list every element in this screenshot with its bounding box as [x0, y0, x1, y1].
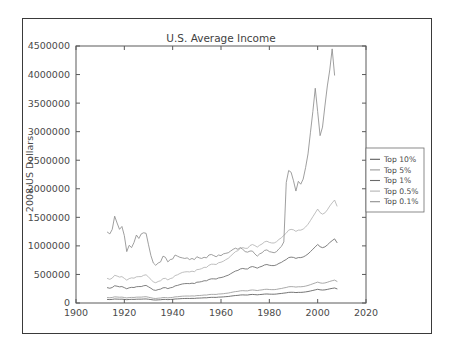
- y-tick-label: 4000000: [28, 69, 70, 80]
- legend-label: Top 10%: [383, 155, 416, 164]
- y-axis-label: 2008 US Dollars: [24, 136, 35, 212]
- chart-canvas: U.S. Average Income 2008 US Dollars 0500…: [0, 0, 454, 354]
- y-tick-label: 2000000: [28, 183, 70, 194]
- legend-label: Top 1%: [383, 176, 411, 185]
- chart-title: U.S. Average Income: [166, 32, 275, 44]
- x-tick-label: 1920: [112, 307, 136, 318]
- plot-area-background: [76, 46, 366, 303]
- y-tick-label: 500000: [34, 269, 70, 280]
- x-tick-label: 1960: [209, 307, 233, 318]
- legend-label: Top 0.1%: [383, 197, 419, 206]
- chart-legend[interactable]: Top 10%Top 5%Top 1%Top 0.5%Top 0.1%: [366, 148, 424, 212]
- y-tick-label: 3500000: [28, 98, 70, 109]
- x-tick-label: 2000: [306, 307, 330, 318]
- x-tick-label: 1900: [64, 307, 88, 318]
- chart-figure: U.S. Average Income 2008 US Dollars 0500…: [0, 0, 454, 354]
- legend-label: Top 5%: [383, 166, 411, 175]
- x-tick-label: 2020: [354, 307, 378, 318]
- y-tick-label: 4500000: [28, 40, 70, 51]
- y-tick-label: 3000000: [28, 126, 70, 137]
- legend-label: Top 0.5%: [383, 187, 419, 196]
- x-tick-label: 1980: [257, 307, 281, 318]
- y-tick-label: 2500000: [28, 155, 70, 166]
- x-tick-label: 1940: [161, 307, 185, 318]
- y-tick-label: 1500000: [28, 212, 70, 223]
- y-tick-label: 1000000: [28, 240, 70, 251]
